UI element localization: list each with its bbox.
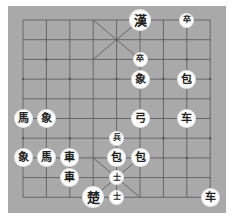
piece-包[interactable]: 包 [132,149,149,166]
board-grid [0,0,234,223]
piece-士[interactable]: 士 [110,191,123,204]
piece-漢[interactable]: 漢 [130,10,150,30]
piece-车[interactable]: 车 [202,189,219,206]
piece-弓[interactable]: 弓 [132,110,149,127]
piece-象[interactable]: 象 [132,71,149,88]
piece-卒[interactable]: 卒 [134,53,147,66]
piece-馬[interactable]: 馬 [15,110,32,127]
piece-兵[interactable]: 兵 [110,132,123,145]
piece-象[interactable]: 象 [38,110,55,127]
piece-卒[interactable]: 卒 [180,14,193,27]
piece-象[interactable]: 象 [15,149,32,166]
piece-包[interactable]: 包 [178,71,195,88]
